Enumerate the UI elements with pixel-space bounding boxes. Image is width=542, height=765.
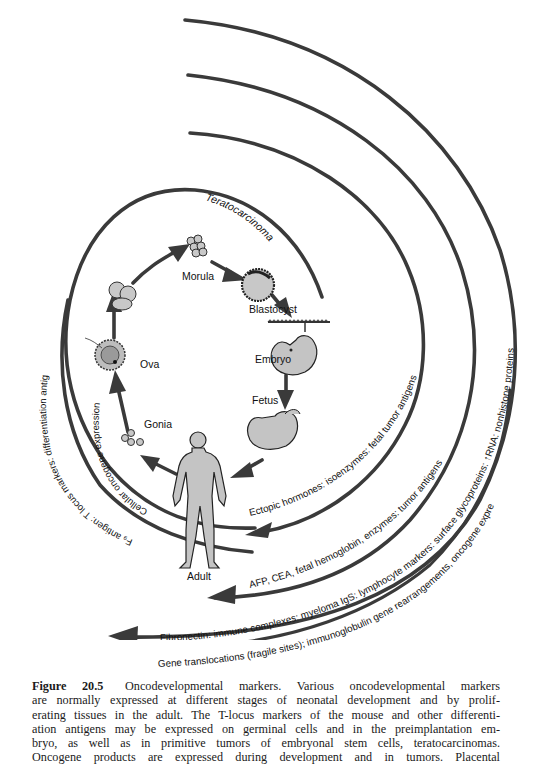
figure-caption: Figure 20.5 Oncodevelopmental markers. V… — [32, 679, 500, 765]
caption-line-1: Figure 20.5 Oncodevelopmental markers. V… — [32, 679, 500, 693]
caption-line-5: bryo, as well as in primitive tumors of … — [32, 736, 500, 750]
arc-ectopic-hormones — [190, 133, 423, 532]
label-cellular-oncogene: Cellular oncogene expression — [90, 402, 149, 518]
label-adult: Adult — [187, 570, 211, 582]
blastocyst-icon — [242, 269, 274, 301]
label-morula: Morula — [182, 270, 214, 282]
caption-line-6: Oncogene products are expressed during d… — [32, 750, 500, 764]
arrowhead-ectopic — [245, 522, 272, 538]
label-gonia: Gonia — [144, 418, 172, 430]
label-ova: Ova — [140, 358, 159, 370]
label-embryo: Embryo — [255, 353, 291, 365]
two-cell-embryo-icon — [109, 282, 136, 310]
arrowhead-afp — [207, 585, 236, 604]
oncodevelopmental-diagram: Morula Blastocyst Embryo Fetus Adult Gon… — [0, 0, 542, 640]
morula-icon — [187, 235, 207, 257]
figure-number: Figure 20.5 — [32, 679, 103, 693]
label-fetus: Fetus — [252, 394, 278, 406]
arrowhead-fibronectin — [108, 626, 138, 640]
fetus-icon — [248, 410, 300, 450]
caption-line-4: ation antigens may be expressed on germi… — [32, 722, 500, 736]
caption-line-3: erating tissues in the adult. The T-locu… — [32, 708, 500, 722]
label-f9-antigen: F₉ antigen: T locus markers: differentia… — [0, 0, 134, 548]
ova-cell-icon — [85, 338, 125, 370]
gonia-cells-icon — [122, 430, 144, 446]
placenta-icon — [268, 320, 330, 332]
label-blastocyst: Blastocyst — [249, 303, 297, 315]
caption-line-2: are normally expressed at different stag… — [32, 693, 500, 707]
arc-afp-cea — [188, 75, 474, 598]
